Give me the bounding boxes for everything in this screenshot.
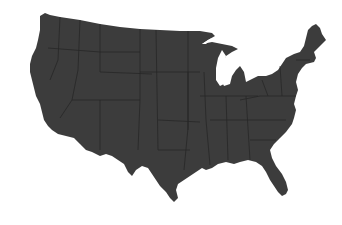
us-map-svg bbox=[0, 0, 342, 225]
us-mainland-shape bbox=[30, 13, 326, 202]
us-map: Contiguous United States bbox=[0, 0, 342, 225]
